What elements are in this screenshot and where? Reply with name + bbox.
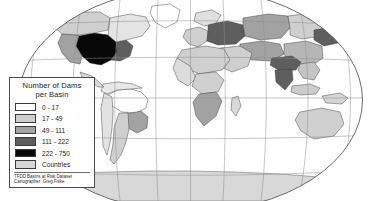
credit-cartographer: Cartographer: Greg Fiske bbox=[14, 179, 88, 184]
legend-title-line2: per Basin bbox=[13, 91, 91, 100]
legend-item-222-750: 222 - 750 bbox=[15, 148, 91, 158]
legend-swatch-countries bbox=[15, 160, 36, 169]
region-russia-west bbox=[243, 14, 290, 40]
legend-item-countries: Countries bbox=[15, 160, 91, 170]
legend-swatch-222-750 bbox=[15, 149, 36, 158]
legend-item-111-222: 111 - 222 bbox=[15, 137, 91, 147]
legend-label-countries: Countries bbox=[42, 161, 70, 168]
legend-swatch-17-49 bbox=[15, 114, 36, 123]
legend-item-17-49: 17 - 49 bbox=[15, 114, 91, 124]
legend-title: Number of Dams per Basin bbox=[13, 82, 91, 99]
legend-swatch-0-17 bbox=[15, 103, 36, 112]
legend-item-49-111: 49 - 111 bbox=[15, 125, 91, 135]
legend-label-0-17: 0 - 17 bbox=[42, 104, 59, 111]
map-legend: Number of Dams per Basin 0 - 17 17 - 49 … bbox=[9, 77, 95, 188]
legend-label-17-49: 17 - 49 bbox=[42, 115, 63, 122]
legend-label-222-750: 222 - 750 bbox=[42, 150, 70, 157]
legend-credit: TFDD Basins at Risk Dataset Cartographer… bbox=[14, 172, 90, 185]
legend-swatch-111-222 bbox=[15, 137, 36, 146]
legend-item-0-17: 0 - 17 bbox=[15, 102, 91, 112]
legend-swatch-49-111 bbox=[15, 126, 36, 135]
legend-label-111-222: 111 - 222 bbox=[42, 138, 69, 145]
legend-label-49-111: 49 - 111 bbox=[42, 127, 65, 134]
